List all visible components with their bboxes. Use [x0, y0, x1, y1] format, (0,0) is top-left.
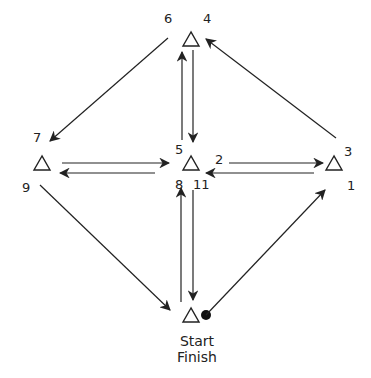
label-2: 2	[215, 153, 223, 166]
label-7: 7	[33, 131, 41, 144]
label-4: 4	[203, 12, 211, 25]
label-1: 1	[347, 179, 355, 192]
node-top-triangle-icon	[183, 32, 199, 46]
label-11: 11	[193, 178, 210, 191]
node-bottom-triangle-icon	[183, 308, 199, 322]
node-left-triangle-icon	[34, 156, 50, 170]
route-diagram	[0, 0, 371, 378]
label-5: 5	[175, 143, 183, 156]
node-right-triangle-icon	[326, 156, 342, 170]
node-center-triangle-icon	[183, 156, 199, 170]
label-3: 3	[344, 145, 352, 158]
arrow-top-to-left	[50, 38, 168, 141]
label-8: 8	[175, 178, 183, 191]
arrow-right-to-top	[206, 39, 336, 138]
label-6: 6	[164, 12, 172, 25]
arrow-left-to-bottom	[40, 185, 170, 310]
label-finish: Finish	[167, 349, 227, 365]
label-9: 9	[22, 181, 30, 194]
arrow-start-to-right	[206, 190, 325, 315]
label-start: Start	[167, 333, 227, 349]
